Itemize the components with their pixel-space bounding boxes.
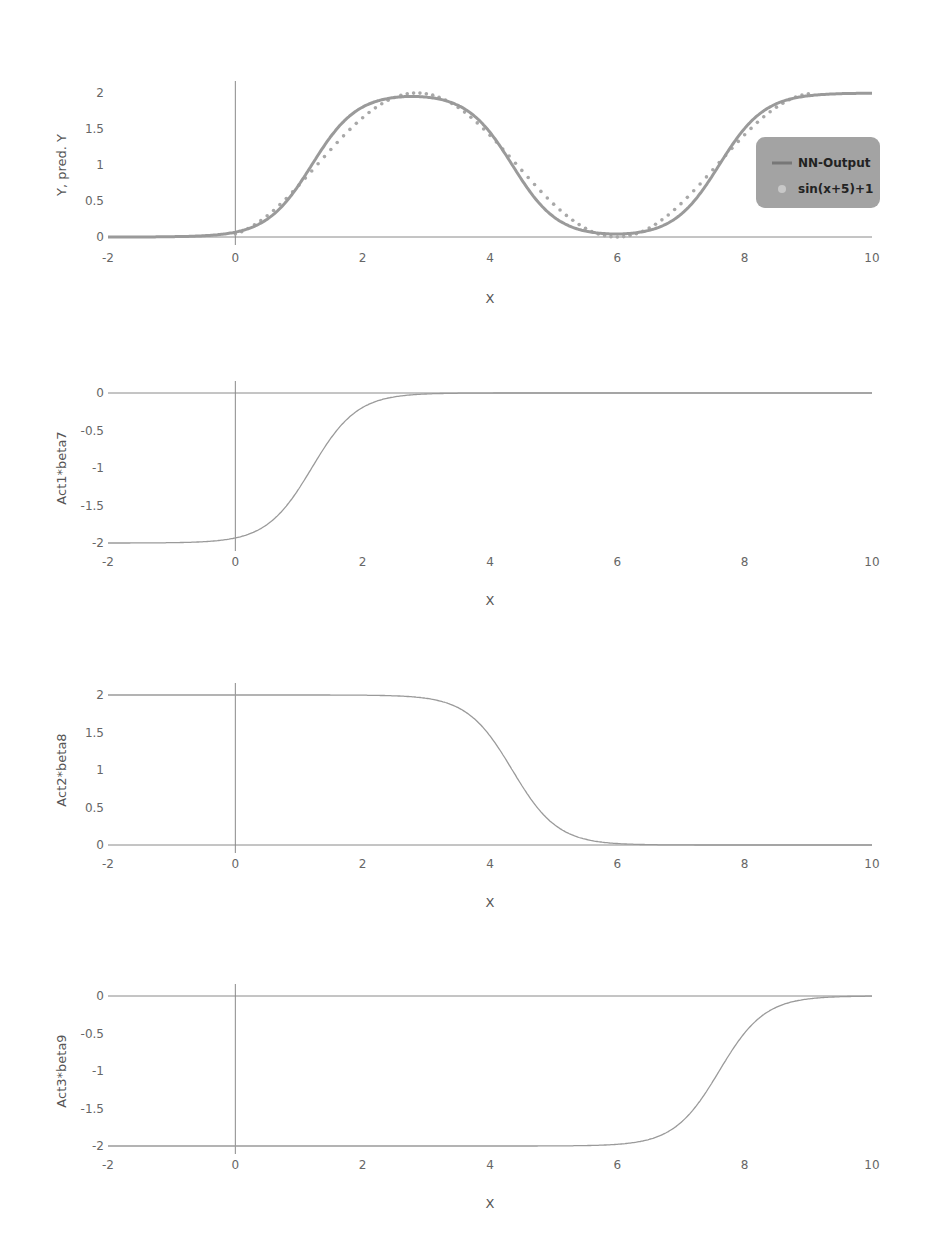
data-point [539, 190, 543, 194]
y-tick-label: -0.5 [81, 424, 104, 438]
x-axis-label: X [486, 1196, 495, 1211]
y-axis-label: Act1*beta7 [54, 431, 69, 504]
y-tick-label: -0.5 [81, 1027, 104, 1041]
data-point [616, 235, 620, 239]
subplot-4: 0-0.5-1-1.5-2-20246810Act3*beta9X [54, 984, 880, 1211]
x-tick-label: 0 [232, 1158, 240, 1172]
data-point [316, 162, 320, 166]
x-tick-label: 6 [614, 555, 622, 569]
data-point [367, 111, 371, 115]
y-tick-label: 2 [96, 688, 104, 702]
x-tick-label: 2 [359, 857, 367, 871]
x-axis-label: X [486, 895, 495, 910]
legend-item-nn-output: NN-Output [798, 156, 871, 170]
y-tick-label: 0 [96, 230, 104, 244]
y-tick-label: 0.5 [85, 194, 104, 208]
data-point [577, 223, 581, 227]
data-point [571, 218, 575, 222]
data-point [335, 141, 339, 145]
data-point [686, 196, 690, 200]
legend-item-sin: sin(x+5)+1 [798, 182, 873, 196]
y-tick-label: 1.5 [85, 726, 104, 740]
y-tick-label: -2 [92, 1139, 104, 1153]
subplot-3: 21.510.50-20246810Act2*beta8X [54, 683, 880, 910]
data-point [412, 91, 416, 95]
x-tick-label: 0 [232, 857, 240, 871]
y-tick-label: 0.5 [85, 801, 104, 815]
data-point [323, 155, 327, 159]
data-point [654, 222, 658, 226]
x-tick-label: -2 [102, 857, 114, 871]
y-tick-label: -1.5 [81, 499, 104, 513]
x-tick-label: 6 [614, 251, 622, 265]
data-point [749, 127, 753, 131]
subplot-1: 21.510.50-20246810Y, pred. YXNN-Outputsi… [54, 81, 880, 306]
data-point [342, 134, 346, 138]
y-tick-label: 1 [96, 763, 104, 777]
x-tick-label: 6 [614, 857, 622, 871]
x-tick-label: 4 [486, 251, 494, 265]
data-point [425, 92, 429, 96]
y-tick-label: -1 [92, 1064, 104, 1078]
x-tick-label: 0 [232, 251, 240, 265]
data-point [756, 121, 760, 125]
legend: NN-Outputsin(x+5)+1 [756, 137, 880, 208]
data-point [666, 213, 670, 217]
y-tick-label: 0 [96, 989, 104, 1003]
x-tick-label: 10 [864, 555, 879, 569]
y-tick-label: -1 [92, 461, 104, 475]
data-point [380, 102, 384, 106]
dot-swatch-icon [778, 185, 786, 193]
x-tick-label: 4 [486, 857, 494, 871]
legend-box [756, 137, 880, 208]
data-point [348, 128, 352, 132]
activation-curve [108, 393, 872, 543]
y-tick-label: -2 [92, 536, 104, 550]
x-tick-label: 10 [864, 251, 879, 265]
x-tick-label: 0 [232, 555, 240, 569]
subplot-2: 0-0.5-1-1.5-2-20246810Act1*beta7X [54, 381, 880, 608]
x-axis-label: X [486, 593, 495, 608]
y-tick-label: 0 [96, 838, 104, 852]
data-point [692, 189, 696, 193]
x-tick-label: 8 [741, 555, 749, 569]
x-tick-label: 2 [359, 555, 367, 569]
y-tick-label: 0 [96, 386, 104, 400]
figure: 21.510.50-20246810Y, pred. YXNN-Outputsi… [0, 0, 928, 1258]
data-point [514, 161, 518, 165]
x-tick-label: 2 [359, 1158, 367, 1172]
y-tick-label: -1.5 [81, 1102, 104, 1116]
x-tick-label: 8 [741, 857, 749, 871]
x-tick-label: 4 [486, 555, 494, 569]
x-tick-label: 8 [741, 1158, 749, 1172]
x-tick-label: -2 [102, 251, 114, 265]
data-point [520, 169, 524, 173]
data-point [526, 176, 530, 180]
data-point [552, 202, 556, 206]
y-axis-label: Y, pred. Y [54, 134, 69, 197]
x-tick-label: 8 [741, 251, 749, 265]
data-point [418, 91, 422, 95]
activation-curve [108, 996, 872, 1146]
data-point [762, 115, 766, 119]
y-axis-label: Act2*beta8 [54, 733, 69, 806]
data-point [329, 148, 333, 152]
x-axis-label: X [486, 291, 495, 306]
data-point [558, 208, 562, 212]
x-tick-label: 10 [864, 857, 879, 871]
x-tick-label: 10 [864, 1158, 879, 1172]
data-point [705, 175, 709, 179]
x-tick-label: 2 [359, 251, 367, 265]
data-point [361, 116, 365, 120]
x-tick-label: -2 [102, 1158, 114, 1172]
x-tick-label: 4 [486, 1158, 494, 1172]
y-tick-label: 2 [96, 86, 104, 100]
data-point [533, 183, 537, 187]
data-point [374, 106, 378, 110]
data-point [673, 208, 677, 212]
data-point [743, 133, 747, 137]
data-point [698, 182, 702, 186]
data-point [355, 122, 359, 126]
y-tick-label: 1.5 [85, 122, 104, 136]
data-point [660, 218, 664, 222]
